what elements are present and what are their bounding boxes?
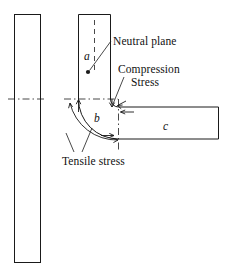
tensile-stress-leader-line-upper	[82, 128, 92, 152]
bending-stress-diagram: Neutral plane CompressionStress Tensile …	[0, 0, 236, 280]
segment-c-label: c	[163, 120, 168, 133]
bent-bar-inner-edge	[111, 15, 219, 108]
compression-stress-label-line2: Stress	[118, 76, 180, 89]
tensile-stress-label: Tensile stress	[62, 155, 125, 168]
neutral-plane-leader-line	[90, 41, 112, 71]
compression-stress-label-line1: Compression	[118, 63, 180, 75]
neutral-plane-label: Neutral plane	[113, 35, 177, 48]
compression-stress-label: CompressionStress	[118, 63, 180, 89]
tensile-stress-leader-line-lower	[66, 133, 74, 152]
segment-a-label: a	[84, 50, 90, 63]
straight-reference-bar	[15, 15, 41, 263]
segment-b-label: b	[94, 112, 100, 125]
neutral-plane-marker-dot	[86, 70, 90, 74]
